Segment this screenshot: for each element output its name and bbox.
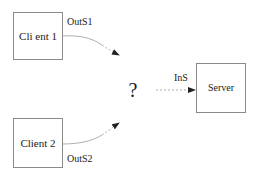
edge-outs2-dashed <box>102 123 119 135</box>
client-2-node: Client 2 <box>14 119 63 168</box>
network-diagram: Cli ent 1 Client 2 Server ? OutS1 OutS2 <box>0 0 257 176</box>
edge-ins-label: InS <box>174 72 188 83</box>
client-2-label: Client 2 <box>20 137 55 149</box>
edge-outs2-label: OutS2 <box>67 153 93 164</box>
edge-outs1-dashed <box>102 45 119 55</box>
edge-ins: InS <box>156 72 195 90</box>
server-label: Server <box>208 82 235 93</box>
edge-outs1-label: OutS1 <box>67 16 93 27</box>
edge-outs2: OutS2 <box>62 123 119 164</box>
edge-outs2-solid <box>62 135 102 144</box>
edge-outs1-solid <box>62 36 102 45</box>
unknown-node-label: ? <box>129 79 138 101</box>
client-1-label: Cli ent 1 <box>19 30 57 42</box>
edge-outs1: OutS1 <box>62 16 119 55</box>
server-node: Server <box>197 64 246 113</box>
client-1-node: Cli ent 1 <box>14 13 63 60</box>
